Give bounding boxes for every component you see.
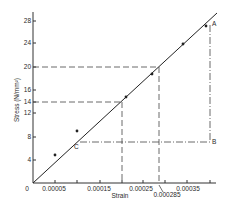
y-axis-title: Stress (N/mm²) [13,78,21,122]
label-c: C [74,143,79,150]
svg-text:12: 12 [24,109,32,116]
svg-text:8: 8 [27,133,31,140]
svg-text:0.00005: 0.00005 [42,185,66,192]
svg-text:4: 4 [27,156,31,163]
svg-text:0.00025: 0.00025 [129,185,153,192]
label-b: B [212,138,216,145]
data-points [54,25,208,157]
y-tick-labels: 4 8 12 14 16 20 24 28 [24,17,32,163]
svg-text:24: 24 [24,39,32,46]
svg-text:28: 28 [24,17,32,24]
svg-text:20: 20 [24,63,32,70]
origin-label: 0 [25,185,29,192]
annotation-strain-label: 0.000285 [153,191,180,198]
svg-text:16: 16 [24,86,32,93]
reference-lines [33,25,210,183]
svg-text:14: 14 [24,98,32,105]
x-axis-title: Strain [112,192,129,199]
svg-text:0.00015: 0.00015 [87,185,111,192]
best-fit-line [33,13,217,183]
stress-strain-chart: 4 8 12 14 16 20 24 28 0 0.00005 0.00015 … [0,0,229,213]
label-a: A [212,20,217,27]
